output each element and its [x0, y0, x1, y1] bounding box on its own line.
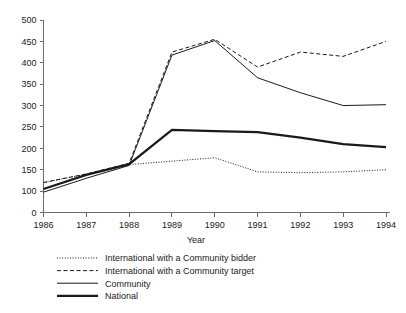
y-tick-label: 350 [21, 79, 36, 89]
series-line [44, 158, 387, 183]
x-tick-label: 1990 [205, 220, 225, 230]
y-axis-group: 0100150200250300350400450500 [21, 15, 43, 218]
y-tick-label: 150 [21, 165, 36, 175]
series-line [44, 130, 387, 189]
y-tick-marks [40, 20, 44, 213]
y-tick-labels: 0100150200250300350400450500 [21, 15, 36, 218]
x-tick-label: 1992 [290, 220, 310, 230]
x-tick-marks [44, 213, 387, 217]
y-tick-label: 100 [21, 186, 36, 196]
x-tick-label: 1987 [76, 220, 96, 230]
y-tick-label: 500 [21, 15, 36, 25]
x-tick-label: 1994 [376, 220, 396, 230]
data-series-group [44, 39, 387, 192]
series-line [44, 39, 387, 182]
x-axis-group: 198619871988198919901991199219931994 Yea… [33, 213, 396, 246]
y-tick-label: 300 [21, 101, 36, 111]
x-tick-label: 1993 [333, 220, 353, 230]
chart-canvas: 0100150200250300350400450500 19861987198… [0, 0, 406, 313]
y-tick-label: 200 [21, 144, 36, 154]
y-tick-label: 400 [21, 58, 36, 68]
legend-label: Community [105, 279, 151, 289]
x-tick-label: 1989 [162, 220, 182, 230]
x-tick-label: 1986 [33, 220, 53, 230]
x-tick-labels: 198619871988198919901991199219931994 [33, 220, 396, 230]
line-chart: 0100150200250300350400450500 19861987198… [0, 0, 406, 313]
y-tick-label: 450 [21, 37, 36, 47]
series-line [44, 41, 387, 193]
y-tick-label: 250 [21, 122, 36, 132]
chart-legend: International with a Community bidderInt… [57, 253, 256, 301]
y-tick-label: 0 [31, 208, 36, 218]
x-tick-label: 1991 [248, 220, 268, 230]
legend-label: International with a Community target [105, 266, 255, 276]
legend-label: International with a Community bidder [105, 253, 256, 263]
legend-label: National [105, 291, 138, 301]
x-tick-label: 1988 [119, 220, 139, 230]
x-axis-title: Year [187, 235, 205, 245]
